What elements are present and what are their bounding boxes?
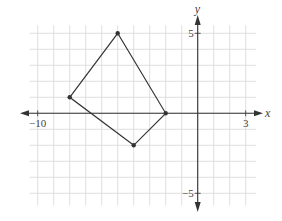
y-tick-label: 5 xyxy=(188,27,194,39)
y-tick-label: −5 xyxy=(182,187,194,199)
coordinate-plane: −1035−5 x y xyxy=(0,0,282,221)
x-axis-label: x xyxy=(264,106,271,120)
plot-svg: −1035−5 x y xyxy=(0,0,282,221)
x-tick-label: 3 xyxy=(243,117,249,129)
axes xyxy=(20,15,263,212)
vertex-point xyxy=(164,111,168,115)
grid-lines xyxy=(30,25,256,205)
x-tick-label: −10 xyxy=(29,117,47,129)
vertex-point xyxy=(132,143,136,147)
x-axis-arrow-left-icon xyxy=(20,110,29,116)
y-axis-arrow-down-icon xyxy=(195,202,201,212)
x-axis-arrow-right-icon xyxy=(254,110,263,116)
vertex-point xyxy=(68,95,72,99)
vertex-point xyxy=(116,31,120,35)
y-axis-label: y xyxy=(194,2,201,16)
y-axis-arrow-up-icon xyxy=(195,15,201,25)
